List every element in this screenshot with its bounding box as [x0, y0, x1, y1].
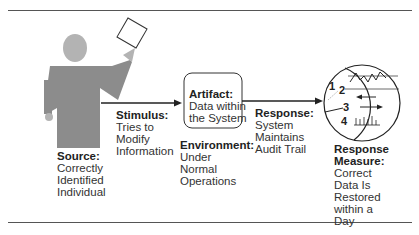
svg-text:3: 3 [343, 101, 349, 113]
artifact-label: Artifact: Data within the System [189, 88, 247, 124]
stimulus-arrow [101, 100, 182, 107]
svg-text:1: 1 [329, 80, 335, 92]
response-label: Response: System Maintains Audit Trail [255, 107, 314, 155]
gauge-icon: 1 2 3 4 [324, 65, 400, 141]
svg-text:2: 2 [339, 84, 345, 96]
svg-text:4: 4 [341, 115, 348, 127]
response-measure-label: Response Measure: Correct Data Is Restor… [334, 143, 389, 227]
environment-label: Environment: Under Normal Operations [180, 139, 254, 187]
response-arrow [242, 98, 323, 105]
source-label: Source: Correctly Identified Individual [57, 150, 106, 198]
stimulus-label: Stimulus: Tries to Modify Information [116, 109, 174, 157]
